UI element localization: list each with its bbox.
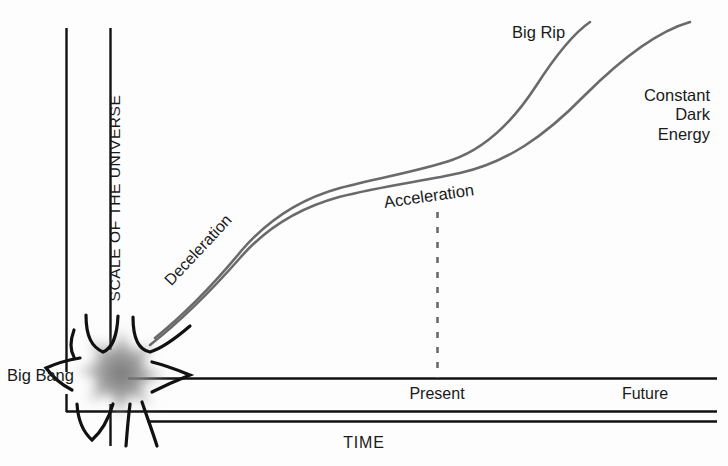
curve-big-rip: [155, 22, 590, 338]
cosmology-expansion-diagram: SCALE OF THE UNIVERSE Big Bang Decelerat…: [0, 0, 728, 466]
constant-dark-energy-line-3: Energy: [644, 125, 710, 144]
x-tick-label-future: Future: [622, 385, 668, 404]
y-axis-label: SCALE OF THE UNIVERSE: [106, 68, 124, 328]
curve-constant-dark-energy: [150, 22, 690, 345]
constant-dark-energy-line-1: Constant: [644, 86, 710, 105]
constant-dark-energy-label: Constant Dark Energy: [644, 86, 710, 144]
constant-dark-energy-line-2: Dark: [644, 105, 710, 124]
big-rip-label: Big Rip: [512, 23, 565, 42]
expansion-curves: [150, 22, 690, 345]
x-axis-label: TIME: [343, 434, 384, 453]
big-bang-label: Big Bang: [7, 366, 74, 385]
x-tick-label-present: Present: [409, 385, 464, 404]
